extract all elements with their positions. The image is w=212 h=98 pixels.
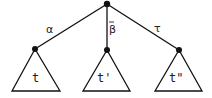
node-middle	[104, 47, 110, 53]
tree-diagram: α β τ t t' t"	[0, 0, 212, 98]
subtree-label-t: t	[32, 71, 39, 85]
subtree-label-t-double-prime: t"	[169, 71, 183, 85]
root-node	[104, 1, 110, 7]
edge-label-beta: β	[109, 23, 116, 36]
edge-label-alpha: α	[46, 23, 53, 36]
node-right	[176, 47, 182, 53]
edge-label-tau: τ	[154, 22, 161, 35]
edge-tau	[107, 4, 179, 50]
subtree-label-t-prime: t'	[97, 71, 111, 85]
node-left	[32, 46, 38, 52]
